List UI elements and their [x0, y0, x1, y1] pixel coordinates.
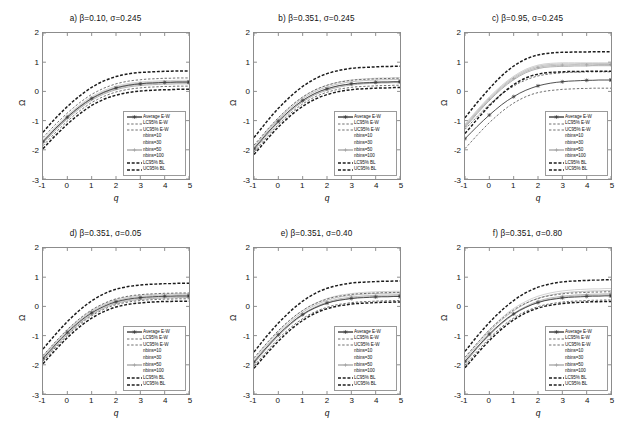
legend-label: nbins=50 [143, 362, 161, 369]
legend-label: LC95% E-W [354, 335, 379, 342]
legend-item: nbins=10 [126, 348, 182, 355]
legend-item: nbins=10 [337, 133, 393, 140]
legend-item: nbins=50 [126, 362, 182, 369]
legend-b: Average E-WLC95% E-WUC95% E-Wnbins=10nbi… [334, 111, 397, 176]
y-tick-label: 0 [457, 302, 461, 311]
plot-area-b: Average E-WLC95% E-WUC95% E-Wnbins=10nbi… [253, 32, 401, 180]
plot-area-f: Average E-WLC95% E-WUC95% E-Wnbins=10nbi… [464, 247, 612, 395]
legend-swatch-icon [126, 160, 143, 166]
y-tick-label: -1 [32, 331, 39, 340]
legend-swatch-icon [548, 336, 565, 342]
subplot-e: e) β=0.351, σ=0.40210-1-2-3-1012345ΩqAve… [211, 215, 422, 429]
legend-item: nbins=100 [337, 153, 393, 160]
subplot-c: c) β=0.95, σ=0.245210-1-2-3-1012345ΩqAve… [422, 0, 633, 214]
x-tick-label: 2 [325, 396, 329, 405]
y-tick-label: 2 [35, 243, 39, 252]
legend-swatch-icon [548, 154, 565, 160]
x-tick-label: 5 [188, 181, 192, 190]
subplot-a: a) β=0.10, σ=0.245210-1-2-3-1012345ΩqAve… [0, 0, 211, 214]
y-tick-label: 1 [246, 57, 250, 66]
legend-swatch-icon [548, 362, 565, 368]
legend-label: nbins=50 [354, 362, 372, 369]
legend-label: nbins=10 [143, 133, 161, 140]
legend-swatch-icon [548, 329, 565, 335]
legend-swatch-icon [126, 114, 143, 120]
legend-item: nbins=50 [548, 147, 604, 154]
legend-swatch-icon [126, 362, 143, 368]
y-tick-label: 0 [35, 87, 39, 96]
legend-item: nbins=100 [126, 153, 182, 160]
x-tick-label: 3 [560, 396, 564, 405]
y-tick-label: 1 [457, 272, 461, 281]
legend-item: Average E-W [548, 329, 604, 336]
legend-item: LC95% BL [548, 160, 604, 167]
legend-item: nbins=10 [548, 133, 604, 140]
x-tick-label: 3 [560, 181, 564, 190]
legend-label: UC95% E-W [565, 127, 591, 134]
y-axis-ticks-d: 210-1-2-3 [0, 247, 42, 395]
legend-label: UC95% E-W [354, 342, 380, 349]
legend-swatch-icon [126, 147, 143, 153]
subplot-title-b: b) β=0.351, σ=0.245 [211, 14, 422, 23]
y-tick-label: 1 [35, 272, 39, 281]
legend-swatch-icon [337, 167, 354, 173]
legend-item: nbins=30 [126, 140, 182, 147]
legend-label: nbins=100 [354, 368, 375, 375]
legend-a: Average E-WLC95% E-WUC95% E-Wnbins=10nbi… [123, 111, 186, 176]
legend-swatch-icon [337, 134, 354, 140]
legend-swatch-icon [337, 121, 354, 127]
legend-item: Average E-W [126, 329, 182, 336]
legend-label: nbins=10 [354, 133, 372, 140]
legend-swatch-icon [548, 114, 565, 120]
legend-swatch-icon [126, 349, 143, 355]
x-tick-label: 5 [610, 396, 614, 405]
y-tick-label: -2 [454, 361, 461, 370]
x-tick-label: -1 [38, 396, 45, 405]
legend-item: LC95% BL [337, 160, 393, 167]
x-tick-label: 0 [64, 181, 68, 190]
legend-item: nbins=100 [126, 368, 182, 375]
subplot-f: f) β=0.351, σ=0.80210-1-2-3-1012345ΩqAve… [422, 215, 633, 429]
legend-swatch-icon [548, 140, 565, 146]
y-axis-label-c: Ω [439, 100, 449, 106]
legend-item: nbins=30 [337, 140, 393, 147]
legend-label: LC95% E-W [354, 120, 379, 127]
legend-label: Average E-W [565, 329, 592, 336]
legend-item: LC95% BL [337, 375, 393, 382]
legend-label: nbins=100 [143, 153, 164, 160]
legend-swatch-icon [337, 382, 354, 388]
legend-item: UC95% BL [548, 381, 604, 388]
legend-label: LC95% BL [143, 375, 165, 382]
legend-label: nbins=30 [354, 140, 372, 147]
plot-area-a: Average E-WLC95% E-WUC95% E-Wnbins=10nbi… [42, 32, 190, 180]
legend-item: UC95% BL [337, 166, 393, 173]
legend-swatch-icon [126, 167, 143, 173]
legend-swatch-icon [337, 362, 354, 368]
x-tick-label: -1 [249, 396, 256, 405]
legend-label: nbins=30 [565, 140, 583, 147]
subplot-title-d: d) β=0.351, σ=0.05 [0, 229, 211, 238]
legend-item: UC95% E-W [548, 342, 604, 349]
y-axis-label-f: Ω [439, 315, 449, 321]
legend-item: LC95% E-W [126, 335, 182, 342]
legend-item: UC95% BL [337, 381, 393, 388]
legend-swatch-icon [548, 349, 565, 355]
legend-item: UC95% BL [126, 166, 182, 173]
x-tick-label: 0 [486, 396, 490, 405]
legend-swatch-icon [337, 349, 354, 355]
y-tick-label: -1 [243, 331, 250, 340]
x-tick-label: 3 [349, 396, 353, 405]
legend-label: Average E-W [354, 329, 381, 336]
legend-item: nbins=10 [337, 348, 393, 355]
legend-swatch-icon [126, 154, 143, 160]
legend-label: UC95% BL [565, 166, 587, 173]
legend-label: UC95% BL [354, 381, 376, 388]
legend-swatch-icon [548, 127, 565, 133]
y-tick-label: -2 [32, 361, 39, 370]
subplot-b: b) β=0.351, σ=0.245210-1-2-3-1012345ΩqAv… [211, 0, 422, 214]
y-tick-label: 2 [246, 243, 250, 252]
x-tick-label: 1 [511, 396, 515, 405]
x-axis-label-f: q [464, 408, 612, 418]
legend-swatch-icon [548, 160, 565, 166]
legend-label: nbins=50 [354, 147, 372, 154]
